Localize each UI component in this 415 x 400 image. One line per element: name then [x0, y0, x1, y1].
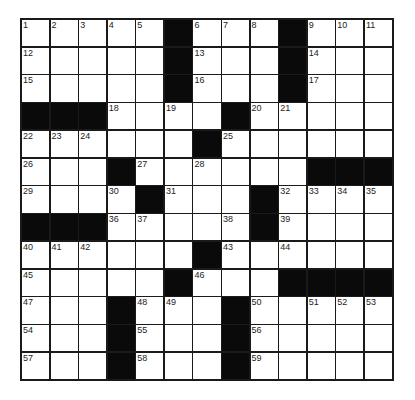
crossword-cell[interactable] [365, 353, 392, 379]
crossword-cell[interactable]: 2 [51, 20, 78, 46]
crossword-cell[interactable] [308, 103, 335, 129]
crossword-cell[interactable] [336, 242, 363, 268]
crossword-cell[interactable]: 5 [136, 20, 163, 46]
crossword-cell[interactable]: 32 [279, 186, 306, 212]
crossword-cell[interactable] [193, 186, 220, 212]
crossword-cell[interactable]: 12 [22, 48, 49, 74]
crossword-cell[interactable]: 4 [108, 20, 135, 46]
crossword-cell[interactable] [79, 48, 106, 74]
crossword-cell[interactable] [79, 159, 106, 185]
crossword-cell[interactable] [79, 75, 106, 101]
crossword-cell[interactable] [193, 103, 220, 129]
crossword-cell[interactable]: 19 [165, 103, 192, 129]
crossword-cell[interactable] [336, 48, 363, 74]
crossword-cell[interactable] [193, 214, 220, 240]
crossword-cell[interactable] [251, 270, 278, 296]
crossword-cell[interactable]: 47 [22, 297, 49, 323]
crossword-cell[interactable] [136, 242, 163, 268]
crossword-cell[interactable] [251, 75, 278, 101]
crossword-cell[interactable]: 26 [22, 159, 49, 185]
crossword-cell[interactable]: 41 [51, 242, 78, 268]
crossword-cell[interactable] [308, 353, 335, 379]
crossword-cell[interactable] [308, 131, 335, 157]
crossword-cell[interactable] [51, 270, 78, 296]
crossword-cell[interactable]: 35 [365, 186, 392, 212]
crossword-cell[interactable]: 58 [136, 353, 163, 379]
crossword-cell[interactable]: 11 [365, 20, 392, 46]
crossword-cell[interactable]: 24 [79, 131, 106, 157]
crossword-cell[interactable]: 1 [22, 20, 49, 46]
crossword-cell[interactable] [51, 75, 78, 101]
crossword-cell[interactable]: 33 [308, 186, 335, 212]
crossword-cell[interactable]: 3 [79, 20, 106, 46]
crossword-cell[interactable]: 46 [193, 270, 220, 296]
crossword-cell[interactable] [308, 242, 335, 268]
crossword-cell[interactable]: 38 [222, 214, 249, 240]
crossword-cell[interactable] [165, 242, 192, 268]
crossword-cell[interactable] [222, 270, 249, 296]
crossword-cell[interactable]: 17 [308, 75, 335, 101]
crossword-cell[interactable]: 23 [51, 131, 78, 157]
crossword-cell[interactable]: 48 [136, 297, 163, 323]
crossword-cell[interactable]: 10 [336, 20, 363, 46]
crossword-cell[interactable] [308, 214, 335, 240]
crossword-cell[interactable] [365, 214, 392, 240]
crossword-cell[interactable]: 14 [308, 48, 335, 74]
crossword-cell[interactable] [365, 131, 392, 157]
crossword-cell[interactable] [279, 297, 306, 323]
crossword-cell[interactable] [336, 325, 363, 351]
crossword-cell[interactable] [136, 75, 163, 101]
crossword-cell[interactable] [365, 75, 392, 101]
crossword-cell[interactable] [79, 186, 106, 212]
crossword-cell[interactable] [222, 186, 249, 212]
crossword-cell[interactable]: 56 [251, 325, 278, 351]
crossword-cell[interactable] [165, 214, 192, 240]
crossword-cell[interactable] [108, 242, 135, 268]
crossword-cell[interactable] [308, 325, 335, 351]
crossword-cell[interactable] [222, 48, 249, 74]
crossword-cell[interactable] [365, 242, 392, 268]
crossword-cell[interactable]: 8 [251, 20, 278, 46]
crossword-cell[interactable] [108, 48, 135, 74]
crossword-cell[interactable] [51, 48, 78, 74]
crossword-cell[interactable]: 36 [108, 214, 135, 240]
crossword-cell[interactable] [336, 75, 363, 101]
crossword-cell[interactable]: 37 [136, 214, 163, 240]
crossword-cell[interactable] [108, 270, 135, 296]
crossword-cell[interactable] [279, 353, 306, 379]
crossword-cell[interactable]: 54 [22, 325, 49, 351]
crossword-cell[interactable] [193, 353, 220, 379]
crossword-cell[interactable] [336, 131, 363, 157]
crossword-cell[interactable] [251, 242, 278, 268]
crossword-cell[interactable] [165, 325, 192, 351]
crossword-cell[interactable] [79, 353, 106, 379]
crossword-cell[interactable] [279, 325, 306, 351]
crossword-cell[interactable] [279, 159, 306, 185]
crossword-cell[interactable] [79, 325, 106, 351]
crossword-cell[interactable] [51, 186, 78, 212]
crossword-cell[interactable]: 20 [251, 103, 278, 129]
crossword-cell[interactable]: 57 [22, 353, 49, 379]
crossword-cell[interactable] [251, 131, 278, 157]
crossword-cell[interactable]: 53 [365, 297, 392, 323]
crossword-cell[interactable]: 45 [22, 270, 49, 296]
crossword-cell[interactable] [251, 48, 278, 74]
crossword-cell[interactable]: 52 [336, 297, 363, 323]
crossword-cell[interactable]: 27 [136, 159, 163, 185]
crossword-cell[interactable] [336, 103, 363, 129]
crossword-cell[interactable] [51, 353, 78, 379]
crossword-cell[interactable] [336, 214, 363, 240]
crossword-cell[interactable] [165, 353, 192, 379]
crossword-cell[interactable]: 7 [222, 20, 249, 46]
crossword-cell[interactable]: 28 [193, 159, 220, 185]
crossword-cell[interactable] [136, 131, 163, 157]
crossword-cell[interactable] [51, 159, 78, 185]
crossword-cell[interactable]: 51 [308, 297, 335, 323]
crossword-cell[interactable] [108, 75, 135, 101]
crossword-cell[interactable] [136, 103, 163, 129]
crossword-cell[interactable]: 44 [279, 242, 306, 268]
crossword-cell[interactable]: 13 [193, 48, 220, 74]
crossword-cell[interactable] [51, 297, 78, 323]
crossword-cell[interactable] [251, 159, 278, 185]
crossword-cell[interactable] [108, 131, 135, 157]
